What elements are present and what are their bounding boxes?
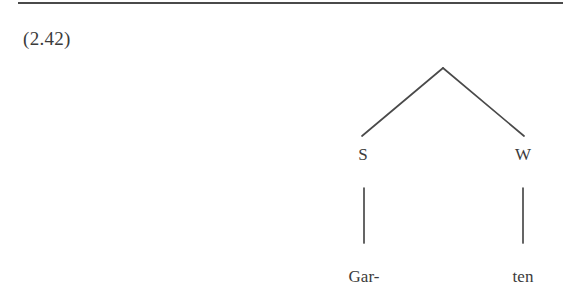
- tree-terminal-gar: Gar-: [349, 268, 380, 285]
- metrical-tree-diagram: [0, 0, 563, 297]
- tree-terminal-ten: ten: [513, 268, 534, 285]
- tree-node-strong: S: [358, 146, 367, 163]
- branch-root-to-weak: [443, 68, 524, 136]
- tree-node-weak: W: [515, 146, 531, 163]
- document-page: (2.42) S W Gar- ten: [0, 0, 563, 297]
- branch-root-to-strong: [362, 68, 443, 136]
